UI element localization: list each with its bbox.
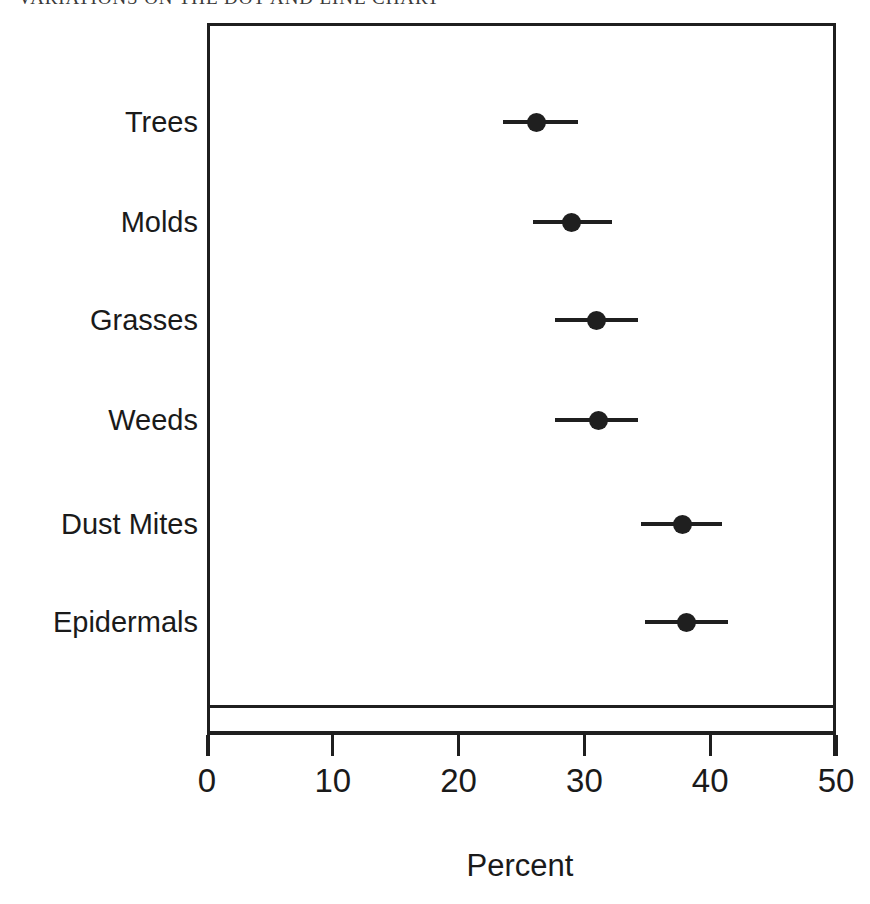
x-axis-tick-label: 50: [818, 762, 855, 800]
data-point-marker: [589, 411, 608, 430]
category-label: Epidermals: [53, 606, 198, 639]
data-point-marker: [562, 213, 581, 232]
x-axis-tick-label: 20: [440, 762, 477, 800]
category-axis-labels: TreesMoldsGrassesWeedsDust MitesEpiderma…: [0, 0, 198, 904]
x-axis-tick-label: 10: [314, 762, 351, 800]
x-axis-tick-label: 0: [198, 762, 216, 800]
x-axis-tick-label: 40: [692, 762, 729, 800]
x-axis-tick-label: 30: [566, 762, 603, 800]
category-label: Weeds: [108, 404, 198, 437]
category-label: Grasses: [90, 304, 198, 337]
x-axis-tick: [457, 735, 460, 756]
x-axis-tick: [206, 735, 209, 756]
x-axis-title: Percent: [0, 848, 870, 884]
x-axis-tick: [583, 735, 586, 756]
data-point-marker: [587, 311, 606, 330]
x-axis-line: [207, 731, 836, 735]
x-axis-tick: [331, 735, 334, 756]
x-axis-tick: [709, 735, 712, 756]
category-label: Molds: [121, 206, 198, 239]
x-axis-tick: [835, 735, 838, 756]
category-label: Dust Mites: [61, 508, 198, 541]
data-point-marker: [673, 515, 692, 534]
data-point-marker: [677, 613, 696, 632]
category-label: Trees: [125, 106, 198, 139]
plot-area: [207, 23, 836, 708]
data-point-marker: [527, 113, 546, 132]
